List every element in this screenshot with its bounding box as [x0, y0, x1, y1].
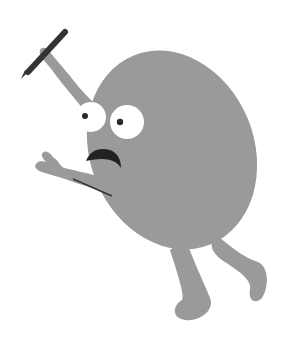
- illustration: Gray round cartoon character holding a p…: [0, 0, 297, 345]
- body: [58, 25, 286, 276]
- legs: [170, 238, 267, 320]
